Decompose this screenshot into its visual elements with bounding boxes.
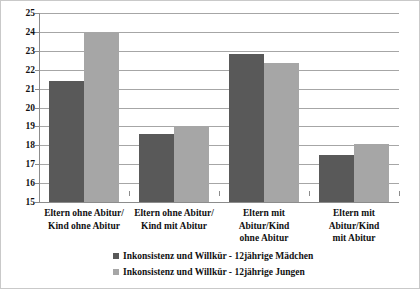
- bar-group: [139, 13, 209, 202]
- y-axis-tick-label: 25: [5, 8, 35, 18]
- x-axis-category-label: Eltern mit Abitur/Kindohne Abitur: [219, 207, 309, 245]
- y-axis-tick-label: 15: [5, 197, 35, 207]
- bar-maedchen[interactable]: [139, 134, 174, 202]
- x-axis-tick-mark: [129, 191, 130, 196]
- legend-item[interactable]: Inkonsistenz und Willkür - 12jährige Mäd…: [113, 251, 313, 261]
- bar-maedchen[interactable]: [229, 54, 264, 202]
- y-axis-tick-label: 17: [5, 159, 35, 169]
- category-label-line: Eltern ohne Abitur/: [129, 207, 219, 220]
- y-axis-tick-label: 21: [5, 84, 35, 94]
- x-axis-tick-mark: [399, 191, 400, 196]
- bar-group: [319, 13, 389, 202]
- bar-jungen[interactable]: [174, 126, 209, 202]
- bar-jungen[interactable]: [84, 32, 119, 202]
- bar-maedchen[interactable]: [49, 81, 84, 202]
- bar-jungen[interactable]: [354, 144, 389, 202]
- bar-maedchen[interactable]: [319, 155, 354, 202]
- category-label-line: mit Abitur: [309, 232, 399, 245]
- y-axis-tick-label: 19: [5, 121, 35, 131]
- category-label-line: Eltern mit Abitur/Kind: [309, 207, 399, 232]
- y-axis-line: [39, 13, 40, 203]
- chart-container: 2524232221201918171615 Eltern ohne Abitu…: [0, 0, 420, 289]
- x-axis-line: [39, 202, 399, 203]
- x-axis-tick-mark: [309, 191, 310, 196]
- y-axis-tick-label: 20: [5, 103, 35, 113]
- bar-group: [49, 13, 119, 202]
- category-label-line: Eltern ohne Abitur/: [39, 207, 129, 220]
- category-label-line: Eltern mit Abitur/Kind: [219, 207, 309, 232]
- legend-swatch-icon: [113, 253, 119, 259]
- category-label-line: Kind mit Abitur: [129, 220, 219, 233]
- chart-legend: Inkonsistenz und Willkür - 12jährige Mäd…: [113, 251, 313, 277]
- bar-group: [229, 13, 299, 202]
- x-axis-tick-mark: [219, 191, 220, 196]
- category-label-line: Kind ohne Abitur: [39, 220, 129, 233]
- legend-item[interactable]: Inkonsistenz und Willkür - 12jährige Jun…: [113, 267, 313, 277]
- y-axis-tick-label: 24: [5, 27, 35, 37]
- x-axis-tick-mark: [39, 191, 40, 196]
- y-axis-tick-label: 23: [5, 46, 35, 56]
- legend-label: Inkonsistenz und Willkür - 12jährige Jun…: [123, 267, 305, 277]
- bar-jungen[interactable]: [264, 63, 299, 202]
- y-axis-tick-label: 18: [5, 140, 35, 150]
- x-axis-category-label: Eltern mit Abitur/Kindmit Abitur: [309, 207, 399, 245]
- category-label-line: ohne Abitur: [219, 232, 309, 245]
- plot-area: [39, 13, 399, 203]
- y-axis-tick-label: 22: [5, 65, 35, 75]
- legend-swatch-icon: [113, 269, 119, 275]
- y-axis-tick-label: 16: [5, 178, 35, 188]
- legend-label: Inkonsistenz und Willkür - 12jährige Mäd…: [123, 251, 313, 261]
- x-axis-category-label: Eltern ohne Abitur/Kind ohne Abitur: [39, 207, 129, 232]
- x-axis-category-label: Eltern ohne Abitur/Kind mit Abitur: [129, 207, 219, 232]
